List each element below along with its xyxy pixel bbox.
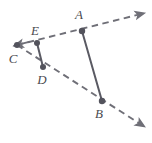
- point-dot-E: [34, 40, 40, 46]
- solid-segments-group: [37, 31, 102, 101]
- point-label-D: D: [37, 73, 46, 86]
- point-label-C: C: [9, 52, 18, 65]
- point-dot-C: [14, 42, 20, 48]
- geometry-figure: A B C D E: [0, 0, 152, 143]
- ray-through-C-D-B: [17, 45, 145, 127]
- point-label-B: B: [95, 107, 103, 120]
- segment-A-B: [82, 31, 102, 101]
- point-dot-B: [99, 98, 105, 104]
- point-dot-D: [40, 64, 46, 70]
- point-dot-A: [79, 28, 85, 34]
- point-label-A: A: [75, 8, 83, 21]
- point-label-E: E: [31, 24, 39, 37]
- segment-E-D: [37, 43, 43, 67]
